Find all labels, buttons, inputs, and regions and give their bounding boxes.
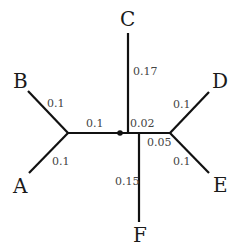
leaf-label-e: E	[213, 173, 228, 197]
leaf-label-b: B	[13, 69, 28, 93]
branch-length-a: 0.1	[52, 155, 70, 168]
branch-length-f: 0.15	[115, 175, 140, 188]
phylogenetic-tree-diagram: B A C D E F 0.1 0.1 0.17 0.1 0.1 0.15 0.…	[0, 0, 235, 251]
branch-length-d: 0.1	[173, 98, 191, 111]
branch-length-internal-right: 0.05	[147, 136, 172, 149]
leaf-label-c: C	[120, 7, 135, 31]
branch-length-c: 0.17	[133, 65, 158, 78]
branch-length-internal-left: 0.1	[86, 117, 104, 130]
root-dot	[117, 130, 123, 136]
branch-length-e: 0.1	[173, 155, 191, 168]
tree-canvas: B A C D E F 0.1 0.1 0.17 0.1 0.1 0.15 0.…	[0, 0, 235, 251]
leaf-label-d: D	[212, 69, 228, 93]
leaf-label-f: F	[133, 223, 147, 247]
branch-length-internal-mid: 0.02	[130, 117, 155, 130]
branch-length-b: 0.1	[47, 97, 65, 110]
leaf-label-a: A	[12, 174, 28, 198]
